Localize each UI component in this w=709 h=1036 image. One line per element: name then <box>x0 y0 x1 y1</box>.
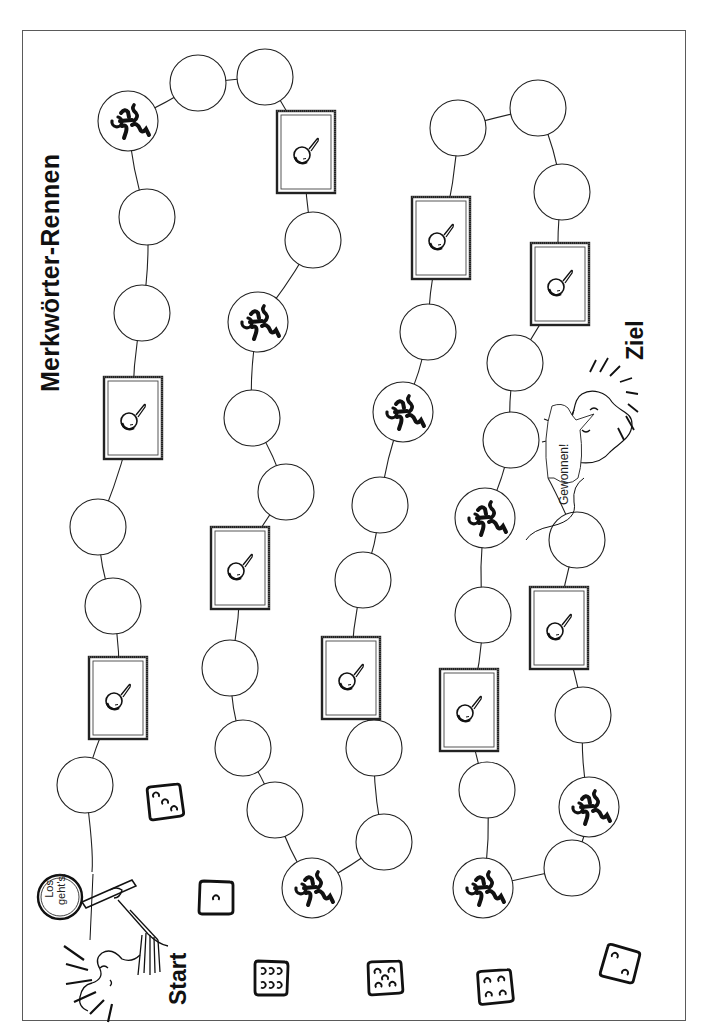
die-3-icon <box>146 783 184 820</box>
board-space-18-empty-field[interactable] <box>215 720 271 776</box>
board-space-27-empty-field[interactable] <box>400 304 456 360</box>
board-space-3-empty-field[interactable] <box>85 578 141 634</box>
board-space-28-magnifier-card-field[interactable] <box>412 197 470 279</box>
goal-speech-text: Gewonnen! <box>557 444 571 505</box>
board-space-2-magnifier-card-field[interactable] <box>89 657 147 739</box>
board-space-22-empty-field[interactable] <box>346 720 402 776</box>
board-space-25-empty-field[interactable] <box>352 477 408 533</box>
die-5-icon <box>367 960 403 995</box>
board-space-17-empty-field[interactable] <box>202 640 258 696</box>
board-space-35-runner-field[interactable] <box>455 488 515 548</box>
board-space-11-magnifier-card-field[interactable] <box>277 111 335 193</box>
board-space-7-empty-field[interactable] <box>119 189 175 245</box>
board-space-1-empty-field[interactable] <box>57 757 113 813</box>
board-space-29-empty-field[interactable] <box>430 100 486 156</box>
board-space-9-empty-field[interactable] <box>170 55 226 111</box>
board-space-19-empty-field[interactable] <box>247 782 303 838</box>
board-space-21-empty-field[interactable] <box>356 814 412 870</box>
board-space-10-empty-field[interactable] <box>237 49 293 105</box>
board-space-34-empty-field[interactable] <box>483 412 539 468</box>
start-speech-text: Los geht's! <box>43 873 67 905</box>
start-speech-line-1: Los <box>43 873 55 905</box>
die-6-icon <box>255 961 288 995</box>
board-space-41-runner-field[interactable] <box>559 777 619 837</box>
die-1-icon <box>199 881 233 914</box>
start-label: Start <box>165 953 192 1005</box>
board-space-43-magnifier-card-field[interactable] <box>530 587 588 669</box>
board-space-15-empty-field[interactable] <box>258 464 314 520</box>
die-4-icon <box>476 968 513 1004</box>
goal-label: Ziel <box>622 320 649 360</box>
board-space-40-empty-field[interactable] <box>544 840 600 896</box>
board-space-38-empty-field[interactable] <box>459 762 515 818</box>
board-space-12-empty-field[interactable] <box>285 212 341 268</box>
board-space-32-magnifier-card-field[interactable] <box>531 243 589 325</box>
board-space-31-empty-field[interactable] <box>534 164 590 220</box>
start-speech-line-2: geht's! <box>55 873 67 905</box>
board-space-24-empty-field[interactable] <box>335 552 391 608</box>
board-space-44-empty-field[interactable] <box>549 512 605 568</box>
board-space-14-empty-field[interactable] <box>224 390 280 446</box>
board-space-6-empty-field[interactable] <box>114 285 170 341</box>
board-space-39-runner-field[interactable] <box>453 858 513 918</box>
board-space-16-magnifier-card-field[interactable] <box>211 527 269 609</box>
board-space-33-empty-field[interactable] <box>487 335 543 391</box>
board-space-37-magnifier-card-field[interactable] <box>440 669 498 751</box>
board-space-13-runner-field[interactable] <box>228 292 288 352</box>
path-spaces <box>57 49 619 918</box>
board-space-4-empty-field[interactable] <box>70 499 126 555</box>
board-space-42-empty-field[interactable] <box>555 687 611 743</box>
board-space-30-empty-field[interactable] <box>510 80 566 136</box>
board-space-23-magnifier-card-field[interactable] <box>322 637 380 719</box>
board-space-26-runner-field[interactable] <box>373 382 433 442</box>
die-2-icon <box>600 943 641 983</box>
board-space-36-empty-field[interactable] <box>455 587 511 643</box>
board-space-5-magnifier-card-field[interactable] <box>104 377 162 459</box>
page-title: Merkwörter-Rennen <box>36 154 65 392</box>
board-space-8-runner-field[interactable] <box>98 91 158 151</box>
game-board <box>0 0 709 1036</box>
board-space-20-runner-field[interactable] <box>282 858 342 918</box>
